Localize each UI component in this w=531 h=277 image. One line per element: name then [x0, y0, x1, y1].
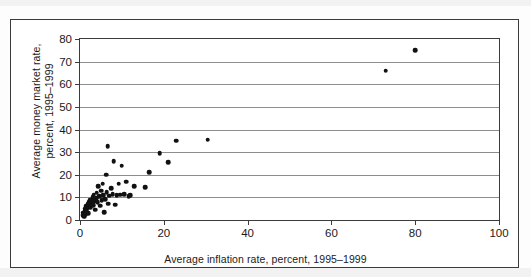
data-point: [105, 144, 110, 149]
x-axis-tick-label: 20: [157, 227, 170, 239]
y-axis-tick-label: 50: [59, 101, 72, 113]
gridline-horizontal: [80, 84, 499, 85]
data-point: [413, 48, 418, 53]
data-point: [111, 159, 116, 164]
gridline-horizontal: [80, 152, 499, 153]
x-axis-tick-label: 80: [409, 227, 422, 239]
y-axis-tick: [75, 152, 80, 153]
data-point: [86, 211, 91, 216]
data-point: [113, 202, 118, 207]
y-axis-tick-label: 20: [59, 169, 72, 181]
data-point: [384, 68, 389, 73]
y-axis-tick-label: 30: [59, 146, 72, 158]
x-axis-tick: [80, 220, 81, 225]
data-point: [100, 182, 105, 187]
data-point: [128, 193, 133, 198]
x-axis-tick-label: 0: [77, 227, 83, 239]
x-axis-tick: [164, 220, 165, 225]
data-point: [106, 201, 111, 206]
y-axis-tick-label: 70: [59, 56, 72, 68]
gridline-horizontal: [80, 130, 499, 131]
x-axis-tick: [248, 220, 249, 225]
data-point: [104, 172, 109, 177]
y-axis-tick-label: 60: [59, 78, 72, 90]
data-point: [166, 160, 171, 165]
data-point: [157, 151, 162, 156]
figure-root: Average money market rate, percent, 1995…: [0, 0, 531, 277]
x-axis-tick: [415, 220, 416, 225]
figure-border-box: Average money market rate, percent, 1995…: [10, 19, 519, 268]
x-axis-tick-label: 100: [489, 227, 508, 239]
x-axis-title: Average inflation rate, percent, 1995–19…: [11, 253, 520, 265]
y-axis-title: Average money market rate, percent, 1995…: [30, 16, 56, 206]
data-point: [109, 186, 114, 191]
y-axis-tick: [75, 107, 80, 108]
x-axis-tick-label: 60: [325, 227, 338, 239]
data-point: [120, 163, 125, 168]
data-point: [116, 182, 121, 187]
data-point: [143, 185, 148, 190]
data-point: [93, 207, 98, 212]
x-axis-tick: [499, 220, 500, 225]
y-axis-tick: [75, 84, 80, 85]
y-axis-tick: [75, 39, 80, 40]
y-axis-tick: [75, 130, 80, 131]
y-axis-tick: [75, 175, 80, 176]
x-axis-tick-label: 40: [241, 227, 254, 239]
y-axis-tick: [75, 197, 80, 198]
y-axis-tick: [75, 62, 80, 63]
gridline-horizontal: [80, 197, 499, 198]
data-point: [124, 179, 129, 184]
plot-area: 01020304050607080020406080100: [79, 38, 500, 221]
data-point: [147, 170, 152, 175]
data-point: [132, 184, 137, 189]
x-axis-tick: [331, 220, 332, 225]
y-axis-tick-label: 10: [59, 191, 72, 203]
gridline-horizontal: [80, 107, 499, 108]
data-point: [102, 210, 107, 215]
data-point: [98, 203, 103, 208]
gridline-horizontal: [80, 62, 499, 63]
y-axis-tick-label: 40: [59, 124, 72, 136]
gridline-horizontal: [80, 175, 499, 176]
y-axis-tick-label: 80: [59, 33, 72, 45]
y-axis-tick-label: 0: [66, 214, 72, 226]
data-point: [205, 137, 210, 142]
data-point: [174, 139, 179, 144]
page-sheet: Average money market rate, percent, 1995…: [0, 6, 531, 268]
